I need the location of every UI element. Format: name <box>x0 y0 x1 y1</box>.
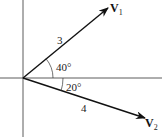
v1-magnitude-label: 3 <box>57 34 63 46</box>
angle-arc-v1 <box>46 59 53 78</box>
v1-angle-label: 40° <box>56 61 71 73</box>
v1-label: V1 <box>110 1 123 17</box>
v2-magnitude-label: 4 <box>81 102 87 114</box>
angle-arc-v2 <box>61 78 63 91</box>
vector-diagram: 3 40° 20° 4 V1 V2 <box>0 0 162 137</box>
v2-angle-label: 20° <box>66 81 81 93</box>
v2-label: V2 <box>145 116 158 132</box>
